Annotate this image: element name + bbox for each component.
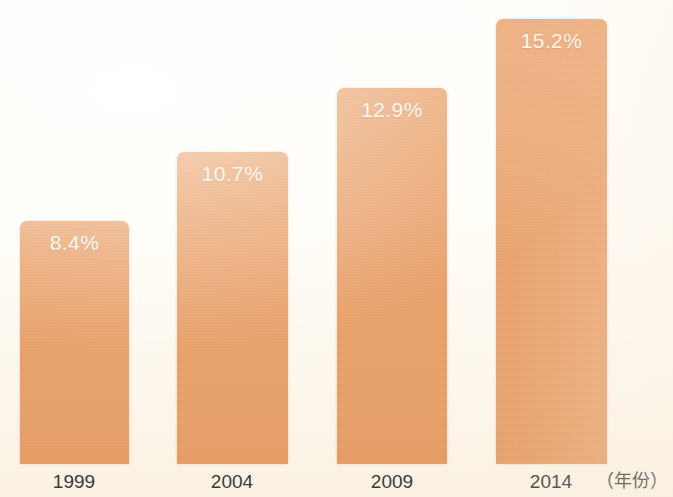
x-tick-label-2004: 2004 [172, 472, 292, 491]
bar-value-label-2009: 12.9% [337, 99, 447, 120]
bar-1999: 8.4% [20, 221, 129, 464]
bar-2004: 10.7% [177, 152, 288, 464]
bar-2009: 12.9% [337, 88, 447, 464]
bar-2014: 15.2% [496, 19, 607, 464]
bar-value-label-2004: 10.7% [177, 163, 288, 184]
x-tick-label-2014: 2014 [491, 472, 611, 491]
bar-value-label-1999: 8.4% [20, 232, 129, 253]
x-axis: 1999 2004 2009 2014 （年份） [0, 464, 673, 497]
x-axis-unit-label: （年份） [596, 472, 668, 490]
x-tick-label-2009: 2009 [332, 472, 452, 491]
bar-group-2009: 12.9% [337, 88, 447, 464]
bar-value-label-2014: 15.2% [496, 30, 607, 51]
bar-chart-figure: 8.4% 10.7% 12.9% 15.2% 1999 2004 2009 20… [0, 0, 673, 497]
plot-area: 8.4% 10.7% 12.9% 15.2% [0, 0, 673, 464]
bar-group-2014: 15.2% [496, 19, 607, 464]
bar-group-2004: 10.7% [177, 152, 288, 464]
bar-group-1999: 8.4% [20, 221, 129, 464]
x-tick-label-1999: 1999 [14, 472, 134, 491]
